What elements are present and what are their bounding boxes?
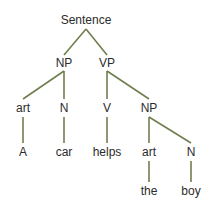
- tree-node-helps: helps: [93, 146, 122, 158]
- tree-edge-s-vp: [86, 29, 107, 55]
- tree-node-v: V: [103, 102, 111, 114]
- syntax-tree-diagram: SentenceNPVPartNVNPAcarhelpsartNtheboy: [0, 0, 220, 203]
- tree-node-the: the: [141, 185, 158, 197]
- tree-node-np1: NP: [56, 57, 73, 69]
- tree-node-n1: N: [60, 102, 69, 114]
- tree-node-s: Sentence: [61, 14, 112, 26]
- tree-edge-vp-np2: [107, 71, 149, 99]
- tree-node-n2: N: [187, 146, 196, 158]
- tree-node-a: A: [19, 146, 27, 158]
- tree-edge-np1-art1: [23, 71, 64, 99]
- tree-node-art1: art: [16, 102, 30, 114]
- tree-node-boy: boy: [181, 185, 200, 197]
- tree-node-vp: VP: [99, 57, 115, 69]
- tree-node-car: car: [56, 146, 73, 158]
- tree-node-art2: art: [142, 146, 156, 158]
- tree-edge-np2-n2: [149, 117, 191, 143]
- tree-edge-s-np1: [64, 29, 86, 55]
- tree-node-np2: NP: [141, 102, 158, 114]
